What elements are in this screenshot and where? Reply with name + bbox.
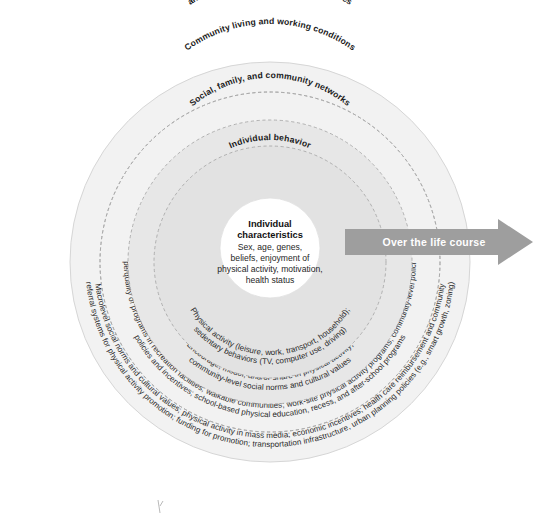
stray-tick-mark [158,500,163,513]
center-title-line2: characteristics [237,230,303,240]
center-body-line4: health status [246,275,295,285]
center-body-line3: physical activity, motivation, [217,264,322,274]
socio-ecological-model-diagram: Macrolevel social, economic, cultural, h… [0,0,540,527]
ring-community-title: Community living and working conditions [183,16,358,52]
center-body-line1: Sex, age, genes, [238,242,303,252]
model-svg-canvas: Macrolevel social, economic, cultural, h… [0,0,540,527]
life-course-arrow-label: Over the life course [382,236,485,248]
ring-macrolevel-title-line2: and environmental conditions and policie… [186,0,355,7]
center-title-line1: Individual [248,219,291,229]
center-body-line2: beliefs, enjoyment of [231,253,310,263]
